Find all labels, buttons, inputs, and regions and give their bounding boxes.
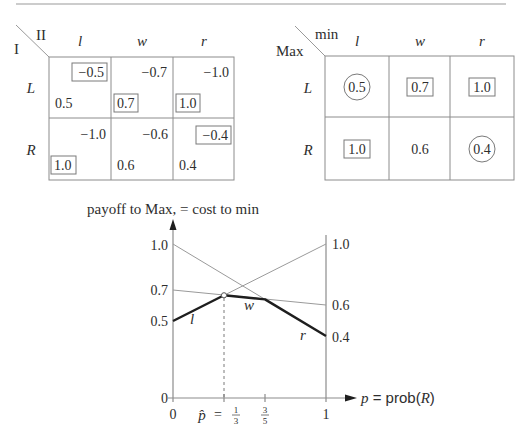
- left-tick-1.0: 1.0: [151, 238, 169, 253]
- left-table-row-player: I: [14, 41, 19, 57]
- right-row-header-L: L: [303, 80, 312, 96]
- chart-y-axis-label: payoff to Max, = cost to min: [87, 201, 259, 217]
- y-axis-arrow-icon: [170, 219, 177, 230]
- left-row-header-L: L: [26, 80, 35, 96]
- left-payoff-table: II I l w r L R −0.5 0.5 −0.7 0.7 −1.0 1.…: [14, 25, 234, 180]
- right-col-header-w: w: [415, 33, 425, 49]
- line-label-w: w: [244, 297, 254, 313]
- right-col-header-r: r: [479, 33, 485, 49]
- left-tick-0: 0: [161, 391, 168, 406]
- cell-L-r-value: 1.0: [473, 80, 491, 95]
- x-label-close: ): [430, 389, 435, 406]
- x-label-arg: R: [420, 390, 430, 406]
- right-tick-1.0: 1.0: [332, 237, 350, 252]
- x-tick-1: 1: [323, 407, 330, 422]
- line-label-r: r: [300, 327, 306, 343]
- mixed-strategy-chart: payoff to Max, = cost to min 1.0 0.7 0.5…: [87, 201, 435, 426]
- cell-L-l-col-payoff: −0.5: [79, 65, 104, 80]
- cell-L-l-row-payoff: 0.5: [55, 96, 73, 111]
- line-label-l: l: [190, 311, 194, 327]
- figure-canvas: II I l w r L R −0.5 0.5 −0.7 0.7 −1.0 1.…: [0, 0, 532, 441]
- x-tick-phat-equals: =: [214, 407, 222, 422]
- cell-R-w-col-payoff: −0.6: [143, 127, 168, 142]
- right-tick-0.4: 0.4: [332, 330, 350, 345]
- cell-R-w-row-payoff: 0.6: [117, 158, 135, 173]
- x-axis-arrow-icon: [345, 395, 357, 402]
- cell-L-r-col-payoff: −1.0: [204, 65, 229, 80]
- left-col-header-l: l: [78, 33, 82, 49]
- cell-R-l-row-payoff: 1.0: [54, 158, 72, 173]
- cell-R-r-col-payoff: −0.4: [203, 128, 228, 143]
- x-tick-phat-denominator: 3: [234, 416, 239, 426]
- cell-R-r-row-payoff: 0.4: [179, 158, 197, 173]
- right-table-row-player: Max: [276, 43, 304, 59]
- x-label-func: prob(: [386, 389, 421, 406]
- cell-L-w-row-payoff: 0.7: [117, 96, 135, 111]
- right-zero-sum-table: min Max l w r L R 0.5 0.7 1.0 1.0 0.6 0.…: [276, 26, 514, 180]
- x-tick-phat-symbol: p̂: [197, 407, 206, 423]
- cell-R-w-value: 0.6: [411, 142, 429, 157]
- right-row-header-R: R: [302, 142, 312, 158]
- cell-R-r-value: 0.4: [473, 142, 491, 157]
- x-tick-3-5-denominator: 5: [263, 416, 268, 426]
- left-col-header-r: r: [201, 33, 207, 49]
- left-table-col-player: II: [36, 27, 46, 43]
- left-col-header-w: w: [137, 33, 147, 49]
- left-tick-0.5: 0.5: [151, 314, 169, 329]
- chart-x-axis-label: p = prob(R): [360, 389, 435, 406]
- x-label-equals: =: [369, 389, 386, 406]
- equilibrium-point-marker: [221, 293, 226, 298]
- cell-L-w-col-payoff: −0.7: [142, 65, 167, 80]
- cell-R-l-value: 1.0: [348, 142, 366, 157]
- right-table-col-player: min: [315, 26, 339, 42]
- cell-L-w-value: 0.7: [411, 80, 429, 95]
- cell-L-r-row-payoff: 1.0: [179, 96, 197, 111]
- x-tick-0: 0: [170, 407, 177, 422]
- right-col-header-l: l: [355, 33, 359, 49]
- x-tick-3-5-numerator: 3: [263, 405, 268, 415]
- cell-R-l-col-payoff: −1.0: [81, 127, 106, 142]
- right-tick-0.6: 0.6: [332, 298, 350, 313]
- left-tick-0.7: 0.7: [151, 283, 169, 298]
- left-row-header-R: R: [25, 142, 35, 158]
- x-tick-phat-numerator: 1: [234, 405, 239, 415]
- cell-L-l-value: 0.5: [348, 80, 366, 95]
